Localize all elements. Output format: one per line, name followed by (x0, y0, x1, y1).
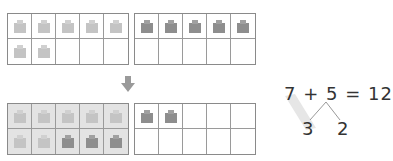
addend-1: 7 (284, 83, 296, 104)
equals-sign: = (345, 83, 361, 104)
plus-sign: + (303, 83, 319, 104)
sum: 12 (368, 83, 393, 104)
equation: 7 + 5 = 12 (284, 83, 393, 104)
split-right: 2 (337, 118, 348, 139)
addend-2: 5 (326, 83, 338, 104)
split-left: 3 (302, 118, 313, 139)
